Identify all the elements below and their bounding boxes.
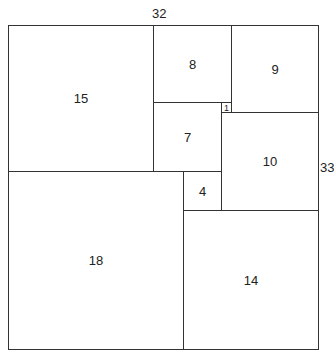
height-label: 33 <box>320 160 334 175</box>
square-8: 8 <box>153 25 232 103</box>
square-9: 9 <box>231 25 319 113</box>
width-label: 32 <box>152 6 166 21</box>
square-10: 10 <box>221 112 319 211</box>
square-7: 7 <box>153 102 222 172</box>
square-14: 14 <box>183 210 319 350</box>
square-4: 4 <box>183 171 222 211</box>
square-18: 18 <box>8 171 184 350</box>
square-15: 15 <box>8 25 154 172</box>
